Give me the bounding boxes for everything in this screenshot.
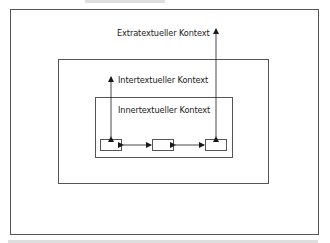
outer-context-label: Extratextueller Kontext <box>117 28 210 38</box>
text-element-box-1 <box>100 139 122 151</box>
cutoff-text-top <box>85 0 165 3</box>
middle-context-label: Intertextueller Kontext <box>118 75 208 85</box>
text-element-box-2 <box>152 139 174 151</box>
text-element-box-3 <box>205 139 227 151</box>
inner-context-label: Innertextueller Kontext <box>118 105 210 115</box>
